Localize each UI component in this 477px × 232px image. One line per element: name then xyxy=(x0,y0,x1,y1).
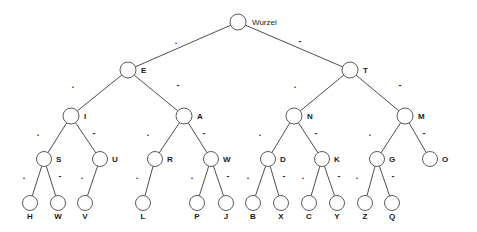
tree-edge-root-E xyxy=(135,25,230,67)
tree-node-I[interactable]: I xyxy=(63,108,86,124)
tree-edge-D-X xyxy=(270,166,279,196)
edge-symbol-D-B: . xyxy=(247,171,250,181)
edge-symbol-I-S: . xyxy=(37,128,40,138)
node-circle-P xyxy=(190,196,205,211)
node-label-T: T xyxy=(363,66,368,75)
tree-edge-G-Z xyxy=(367,166,375,196)
tree-node-root[interactable]: Wurzel xyxy=(230,14,277,30)
edges-layer xyxy=(32,25,426,196)
edge-symbol-A-R: . xyxy=(147,128,150,138)
node-circle-X xyxy=(274,196,289,211)
node-circle-D xyxy=(261,152,276,167)
node-circle-M xyxy=(397,108,413,124)
tree-node-S[interactable]: S xyxy=(37,152,63,167)
tree-edge-N-D xyxy=(272,123,290,153)
tree-node-Z[interactable]: Z xyxy=(358,196,373,222)
node-label-L: L xyxy=(141,212,146,221)
nodes-layer: WurzelETIANMSURWDKGOHWVLPJBXCYZQ xyxy=(23,14,449,221)
tree-edge-T-M xyxy=(356,75,399,111)
tree-edge-G-Q xyxy=(379,166,389,196)
node-circle-G xyxy=(370,152,385,167)
tree-node-G[interactable]: G xyxy=(370,152,396,167)
node-circle-V xyxy=(78,196,93,211)
tree-node-W[interactable]: W xyxy=(204,152,232,167)
tree-node-A[interactable]: A xyxy=(176,108,203,124)
tree-edge-K-C xyxy=(311,166,320,196)
morse-code-tree-diagram: .-.-.-.-.-.-.-.-...-.-.-.- WurzelETIANMS… xyxy=(0,0,477,232)
tree-node-V_W[interactable]: W xyxy=(51,196,66,222)
tree-node-T[interactable]: T xyxy=(342,62,368,78)
node-label-root: Wurzel xyxy=(252,18,277,27)
node-label-S: S xyxy=(56,155,62,164)
node-label-C: C xyxy=(306,212,312,221)
node-circle-root xyxy=(230,14,246,30)
node-circle-I xyxy=(63,108,79,124)
edge-symbol-W-J: - xyxy=(227,171,230,181)
node-circle-A xyxy=(176,108,192,124)
node-circle-V_W xyxy=(51,196,66,211)
node-label-R: R xyxy=(167,155,173,164)
tree-node-Y[interactable]: Y xyxy=(330,196,345,222)
node-label-O: O xyxy=(442,155,448,164)
edge-symbol-U-V: . xyxy=(81,171,84,181)
edge-symbol-S-V_W: - xyxy=(59,171,62,181)
node-label-Y: Y xyxy=(334,212,340,221)
tree-node-K[interactable]: K xyxy=(315,152,341,167)
node-label-M: M xyxy=(418,112,425,121)
tree-node-H[interactable]: H xyxy=(23,196,38,222)
tree-edge-R-L xyxy=(145,166,153,196)
tree-edge-S-V_W xyxy=(46,166,55,196)
tree-node-N[interactable]: N xyxy=(286,108,313,124)
node-circle-R xyxy=(148,152,163,167)
node-circle-S xyxy=(37,152,52,167)
tree-node-U[interactable]: U xyxy=(93,152,119,167)
node-label-I: I xyxy=(84,112,86,121)
tree-node-C[interactable]: C xyxy=(302,196,317,222)
tree-node-Q[interactable]: Q xyxy=(385,196,400,222)
tree-node-J[interactable]: J xyxy=(219,196,234,222)
node-label-D: D xyxy=(280,155,286,164)
edge-symbol-M-G: . xyxy=(369,128,372,138)
edge-symbol-G-Q: - xyxy=(392,171,395,181)
edge-symbol-N-D: . xyxy=(259,128,262,138)
tree-canvas: .-.-.-.-.-.-.-.-...-.-.-.- WurzelETIANMS… xyxy=(0,0,477,232)
tree-node-X[interactable]: X xyxy=(274,196,289,222)
tree-node-V[interactable]: V xyxy=(78,196,93,222)
tree-node-D[interactable]: D xyxy=(261,152,287,167)
tree-node-E[interactable]: E xyxy=(120,62,147,78)
node-label-Q: Q xyxy=(389,212,395,221)
tree-edge-root-T xyxy=(245,25,342,67)
node-circle-W xyxy=(204,152,219,167)
edge-symbol-I-U: - xyxy=(93,128,96,138)
edge-symbol-T-M: - xyxy=(399,80,402,90)
node-label-K: K xyxy=(334,155,340,164)
node-circle-C xyxy=(302,196,317,211)
tree-edge-T-N xyxy=(300,75,344,111)
tree-node-P[interactable]: P xyxy=(190,196,205,222)
node-circle-U xyxy=(93,152,108,167)
tree-node-L[interactable]: L xyxy=(136,196,151,222)
edge-symbol-E-A: - xyxy=(177,80,180,90)
tree-node-O[interactable]: O xyxy=(423,152,449,167)
node-circle-L xyxy=(136,196,151,211)
tree-node-B[interactable]: B xyxy=(246,196,261,222)
node-label-N: N xyxy=(307,112,313,121)
node-circle-K xyxy=(315,152,330,167)
node-label-G: G xyxy=(389,155,395,164)
tree-edge-M-G xyxy=(381,123,401,153)
node-circle-J xyxy=(219,196,234,211)
node-label-B: B xyxy=(250,212,256,221)
tree-edge-D-B xyxy=(255,166,265,196)
edge-symbol-A-W: - xyxy=(203,128,206,138)
tree-edge-E-A xyxy=(134,75,178,111)
edge-symbol-M-O: - xyxy=(423,128,426,138)
tree-edge-S-H xyxy=(32,166,41,196)
node-circle-O xyxy=(423,152,438,167)
node-circle-H xyxy=(23,196,38,211)
tree-node-M[interactable]: M xyxy=(397,108,425,124)
edge-symbol-S-H: . xyxy=(23,171,26,181)
tree-edge-A-R xyxy=(159,123,179,153)
node-circle-E xyxy=(120,62,136,78)
tree-node-R[interactable]: R xyxy=(148,152,174,167)
edge-symbol-N-K: - xyxy=(315,128,318,138)
